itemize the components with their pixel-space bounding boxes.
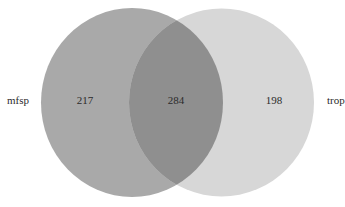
set-label-mfsp: mfsp: [7, 94, 30, 106]
count-trop-only: 198: [266, 94, 283, 106]
count-mfsp-only: 217: [77, 94, 94, 106]
count-intersection: 284: [168, 94, 185, 106]
venn-diagram: mfsp 217 284 198 trop: [0, 0, 345, 207]
set-label-trop: trop: [327, 94, 345, 106]
